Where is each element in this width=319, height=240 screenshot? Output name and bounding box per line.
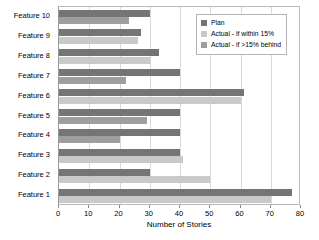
x-axis-tick bbox=[300, 205, 301, 208]
bar-actual-within bbox=[59, 196, 271, 203]
legend-item: Actual - if >15% behind bbox=[201, 40, 281, 50]
bar-plan bbox=[59, 49, 159, 56]
bar-row bbox=[59, 87, 299, 107]
x-axis-tick-label: 80 bbox=[296, 209, 304, 218]
bar-actual-behind bbox=[59, 17, 129, 24]
legend-swatch-icon bbox=[201, 20, 207, 26]
x-axis-tick bbox=[149, 205, 150, 208]
y-axis-label: Feature 5 bbox=[18, 106, 50, 126]
bar-row bbox=[59, 166, 299, 186]
x-axis-title: Number of Stories bbox=[58, 220, 300, 229]
bar-plan bbox=[59, 29, 141, 36]
bar-actual-behind bbox=[59, 117, 147, 124]
y-axis-label: Feature 7 bbox=[18, 66, 50, 86]
legend-item: Actual - if within 15% bbox=[201, 29, 281, 39]
x-axis-tick bbox=[119, 205, 120, 208]
bar-actual-behind bbox=[59, 77, 126, 84]
bar-actual-behind bbox=[59, 136, 120, 143]
bar-plan bbox=[59, 169, 150, 176]
bar-plan bbox=[59, 109, 180, 116]
y-axis-label: Feature 4 bbox=[18, 125, 50, 145]
bar-plan bbox=[59, 129, 180, 136]
x-axis-tick-label: 30 bbox=[145, 209, 153, 218]
bar-chart: Feature 10Feature 9Feature 8Feature 7Fea… bbox=[0, 0, 319, 240]
bar-actual-within bbox=[59, 37, 138, 44]
bar-row bbox=[59, 107, 299, 127]
x-axis-tick bbox=[209, 205, 210, 208]
bar-actual-within bbox=[59, 97, 241, 104]
y-axis-label: Feature 3 bbox=[18, 145, 50, 165]
x-axis-tick-label: 70 bbox=[266, 209, 274, 218]
y-axis-label: Feature 9 bbox=[18, 26, 50, 46]
y-axis-label: Feature 2 bbox=[18, 165, 50, 185]
legend-label: Actual - if within 15% bbox=[211, 31, 274, 38]
legend-swatch-icon bbox=[201, 31, 207, 37]
x-axis-ticks: 01020304050607080 bbox=[58, 205, 300, 219]
bar-plan bbox=[59, 149, 180, 156]
x-axis-tick-label: 10 bbox=[84, 209, 92, 218]
x-axis-tick bbox=[240, 205, 241, 208]
x-axis-tick bbox=[270, 205, 271, 208]
y-axis-labels: Feature 10Feature 9Feature 8Feature 7Fea… bbox=[0, 6, 54, 205]
y-axis-label: Feature 8 bbox=[18, 46, 50, 66]
x-axis-tick-label: 50 bbox=[205, 209, 213, 218]
x-axis-tick-label: 40 bbox=[175, 209, 183, 218]
bar-row bbox=[59, 186, 299, 205]
bar-row bbox=[59, 126, 299, 146]
bar-row bbox=[59, 67, 299, 87]
bar-plan bbox=[59, 189, 292, 196]
bar-actual-within bbox=[59, 156, 183, 163]
x-axis-tick-label: 60 bbox=[235, 209, 243, 218]
x-axis-tick bbox=[179, 205, 180, 208]
legend-item: Plan bbox=[201, 18, 281, 28]
x-axis-tick bbox=[88, 205, 89, 208]
bar-plan bbox=[59, 69, 180, 76]
y-axis-label: Feature 1 bbox=[18, 185, 50, 205]
bar-actual-within bbox=[59, 57, 150, 64]
bar-plan bbox=[59, 10, 150, 17]
legend-swatch-icon bbox=[201, 42, 207, 48]
bar-plan bbox=[59, 89, 244, 96]
chart-legend: PlanActual - if within 15%Actual - if >1… bbox=[196, 14, 287, 55]
x-axis-tick-label: 20 bbox=[114, 209, 122, 218]
bar-actual-within bbox=[59, 176, 210, 183]
x-axis-tick-label: 0 bbox=[56, 209, 60, 218]
x-axis-tick bbox=[58, 205, 59, 208]
y-axis-label: Feature 10 bbox=[14, 6, 50, 26]
legend-label: Plan bbox=[211, 20, 225, 27]
bar-row bbox=[59, 146, 299, 166]
y-axis-label: Feature 6 bbox=[18, 86, 50, 106]
legend-label: Actual - if >15% behind bbox=[211, 42, 281, 49]
